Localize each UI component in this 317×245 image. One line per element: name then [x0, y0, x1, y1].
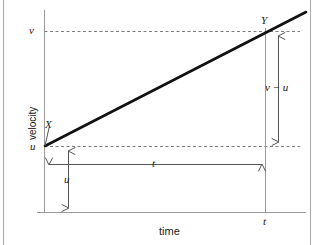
y-axis-label: velocity [28, 107, 38, 140]
velocity-time-diagram: v u t X Y v − u t u time velocity [0, 0, 317, 245]
x-axis-label: time [159, 225, 180, 237]
annotation-label-run: t [152, 158, 155, 169]
y-tick-label-v: v [29, 25, 34, 36]
velocity-line [45, 12, 306, 146]
annotation-label-initial-velocity: u [64, 174, 70, 185]
point-label-y: Y [261, 15, 267, 26]
annotation-label-rise: v − u [265, 82, 288, 93]
point-label-x: X [45, 119, 52, 130]
y-tick-label-u: u [30, 141, 36, 152]
x-tick-label-t: t [263, 216, 266, 227]
